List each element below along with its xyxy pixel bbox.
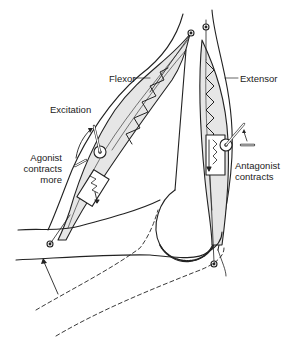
excitation-arrow (76, 130, 90, 158)
agonist-label: Agonist contracts more (20, 152, 62, 185)
flexor-muscle (58, 34, 190, 240)
flexor-label: Flexor (109, 73, 135, 84)
forearm-outline-bottom (16, 232, 222, 260)
extensor-label: Extensor (240, 73, 278, 84)
extended-forearm-dashed-bottom (56, 248, 224, 336)
elbow-muscle-diagram: Flexor Extensor Excitation Agonist contr… (0, 0, 285, 338)
antagonist-label: Antagonist contracts (235, 160, 280, 182)
movement-arrow (44, 262, 58, 294)
excitation-label: Excitation (50, 104, 91, 115)
